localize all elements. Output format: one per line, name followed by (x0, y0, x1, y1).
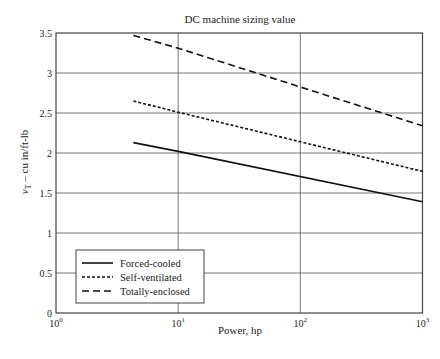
x-tick-label: 103 (416, 316, 430, 329)
series-lines (133, 35, 422, 201)
x-tick-label: 100 (49, 316, 63, 329)
legend-entry: Self-ventilated (120, 272, 183, 283)
y-tick-label: 2 (47, 148, 52, 159)
y-tick-label: 1 (47, 228, 52, 239)
y-tick-label: 0.5 (40, 268, 53, 279)
y-tick-label: 1.5 (40, 188, 53, 199)
chart: DC machine sizing value 00.511.522.533.5… (0, 0, 440, 359)
chart-title: DC machine sizing value (185, 13, 296, 25)
legend-entry: Totally-enclosed (120, 286, 191, 297)
x-tick-label: 102 (294, 316, 308, 329)
x-axis-label: Power, hp (218, 324, 263, 336)
y-axis-label: vT – cu in/ft-lb (18, 129, 33, 194)
y-tick-label: 3 (47, 68, 52, 79)
legend: Forced-cooledSelf-ventilatedTotally-encl… (76, 250, 204, 303)
y-axis-ticks: 00.511.522.533.5 (40, 28, 53, 319)
x-tick-label: 101 (171, 316, 185, 329)
y-tick-label: 3.5 (40, 28, 53, 39)
legend-entry: Forced-cooled (120, 258, 181, 269)
y-tick-label: 2.5 (40, 108, 53, 119)
series-totally-enclosed (133, 35, 422, 125)
